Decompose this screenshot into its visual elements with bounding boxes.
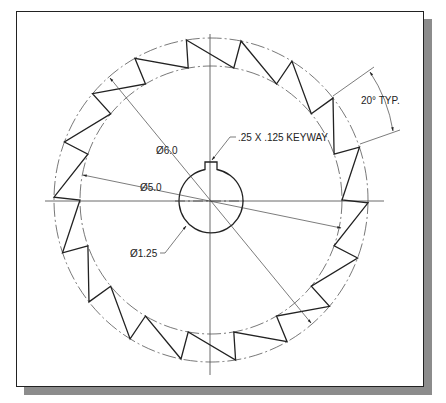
bore-diameter-leader [160, 226, 186, 253]
keyway-leader [212, 137, 236, 160]
root-diameter-dimension-line [83, 175, 341, 228]
inner-circle [80, 66, 342, 334]
outer-diameter-dimension-line [110, 78, 311, 323]
keyway-label: .25 X .125 KEYWAY [238, 132, 328, 143]
angle-extension-line-upper [333, 67, 374, 96]
gear-teeth-outline [54, 40, 368, 360]
technical-drawing: Ø6.0 Ø5.0 Ø1.25 .25 X .125 KEYWAY 20° TY… [0, 0, 446, 403]
angle-label: 20° TYP. [361, 95, 400, 106]
angle-extension-line-lower [360, 130, 400, 144]
root-diameter-label: Ø5.0 [140, 182, 162, 193]
outer-diameter-label: Ø6.0 [156, 145, 178, 156]
bore-diameter-label: Ø1.25 [130, 248, 158, 259]
outer-circle [54, 38, 368, 362]
bore-with-keyway [179, 162, 243, 233]
